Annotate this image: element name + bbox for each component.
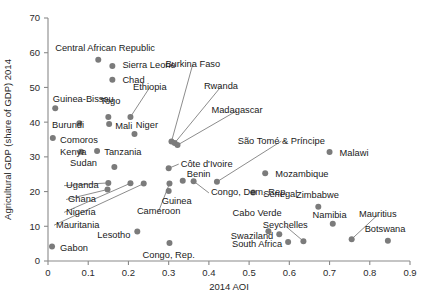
x-tick-label: 0.5 <box>243 267 256 278</box>
data-point <box>134 228 140 234</box>
x-tick-label: 0.1 <box>82 267 95 278</box>
data-point-label: Nigeria <box>66 207 96 217</box>
y-tick-label: 30 <box>29 151 40 162</box>
data-point <box>95 57 101 63</box>
y-tick-label: 40 <box>29 117 40 128</box>
data-point-label: Madagascar <box>211 105 262 115</box>
data-point-label: Mauritius <box>359 209 397 219</box>
data-point-label: Mozambique <box>275 169 328 179</box>
x-tick-label: 0.8 <box>363 267 376 278</box>
y-tick-label: 10 <box>29 221 40 232</box>
x-axis-title: 2014 AOI <box>209 281 249 292</box>
data-point <box>127 180 133 186</box>
data-point-label: Côte d'Ivoire <box>181 159 233 169</box>
y-tick-label: 60 <box>29 47 40 58</box>
data-point-label: Congo, Rep. <box>143 250 195 260</box>
data-point-label: Benin <box>187 169 211 179</box>
data-point-label: Botswana <box>365 224 407 234</box>
data-point <box>330 221 336 227</box>
data-point <box>109 77 115 83</box>
data-point-label: São Tomé & Príncipe <box>238 136 325 146</box>
data-point <box>105 180 111 186</box>
data-point-label: Mali <box>115 121 132 131</box>
data-point <box>50 135 56 141</box>
x-tick-label: 0 <box>45 267 50 278</box>
data-point <box>262 170 268 176</box>
data-point-label: Guinea <box>162 196 193 206</box>
data-point-label: Togo <box>100 96 120 106</box>
data-point <box>105 114 111 120</box>
data-point-label: Cabo Verde <box>233 208 282 218</box>
leader-line <box>178 111 238 145</box>
y-tick-label: 50 <box>29 82 40 93</box>
data-point-label: Burundi <box>52 120 84 130</box>
x-tick-label: 0.3 <box>162 267 175 278</box>
data-point <box>111 164 117 170</box>
x-tick-label: 0.7 <box>323 267 336 278</box>
leader-line <box>130 87 149 117</box>
data-point-label: Mauritania <box>56 220 100 230</box>
data-point-label: Cameroon <box>137 206 180 216</box>
data-point <box>52 105 58 111</box>
data-point-label: Gabon <box>60 243 88 253</box>
x-tick-label: 0.6 <box>283 267 296 278</box>
data-point <box>109 63 115 69</box>
data-point <box>127 114 133 120</box>
data-point <box>180 178 186 184</box>
data-point <box>276 231 282 237</box>
x-tick-label: 0.2 <box>122 267 135 278</box>
data-point <box>285 239 291 245</box>
x-tick-label: 0.4 <box>202 267 215 278</box>
leader-line <box>171 64 192 141</box>
data-point <box>49 243 55 249</box>
data-point-label: Seychelles <box>263 220 308 230</box>
data-point-label: Ethiopia <box>133 82 167 92</box>
data-point <box>166 165 172 171</box>
data-point-label: Central African Republic <box>55 43 155 53</box>
data-point-label: Ghana <box>68 194 97 204</box>
data-point <box>327 149 333 155</box>
data-point <box>131 131 137 137</box>
data-point <box>349 236 355 242</box>
data-point-label: South Africa <box>232 239 283 249</box>
data-point-label: Sudan <box>70 158 97 168</box>
data-point <box>141 181 147 187</box>
data-point <box>106 121 112 127</box>
data-point-label: Niger <box>136 120 158 130</box>
y-tick-label: 20 <box>29 186 40 197</box>
data-point-label: Rwanda <box>204 81 239 91</box>
data-point <box>94 148 100 154</box>
data-point <box>191 178 197 184</box>
data-point <box>166 188 172 194</box>
point-labels: Central African RepublicSierra LeoneChad… <box>52 43 406 261</box>
data-point <box>300 238 306 244</box>
data-point <box>166 181 172 187</box>
x-tick-label: 0.9 <box>403 267 416 278</box>
data-point-label: Lesotho <box>97 230 130 240</box>
y-tick-label: 0 <box>35 255 40 266</box>
data-point-label: Burkina Faso <box>165 59 220 69</box>
chart-canvas: 00.10.20.30.40.50.60.70.80.9010203040506… <box>0 0 422 296</box>
data-point <box>175 142 181 148</box>
y-axis-title: Agricultural GDP (share of GDP) 2014 <box>2 59 13 220</box>
data-point-label: Comoros <box>60 135 98 145</box>
data-point-label: Namibia <box>313 210 348 220</box>
data-point-label: Kenya <box>60 147 87 157</box>
data-point-label: Senegal <box>263 189 297 199</box>
scatter-chart: 00.10.20.30.40.50.60.70.80.9010203040506… <box>0 0 422 296</box>
data-point <box>105 186 111 192</box>
data-point-label: Zimbabwe <box>296 190 339 200</box>
y-tick-label: 70 <box>29 12 40 23</box>
data-point-label: Malawi <box>340 148 369 158</box>
data-point <box>214 179 220 185</box>
data-point <box>385 238 391 244</box>
data-point-label: Tanzania <box>104 147 142 157</box>
data-point-label: Uganda <box>66 180 99 190</box>
data-point <box>166 240 172 246</box>
